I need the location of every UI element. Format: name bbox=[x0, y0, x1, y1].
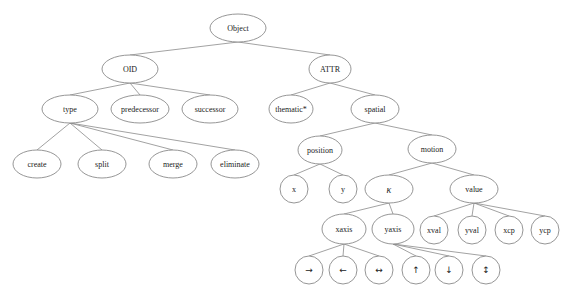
node-label: thematic* bbox=[275, 105, 307, 114]
edge-attr-to-thematic bbox=[291, 83, 330, 95]
node-yaxis: yaxis bbox=[372, 214, 414, 244]
node-label: xaxis bbox=[336, 225, 353, 234]
node-label: eliminate bbox=[220, 160, 250, 169]
node-up-down-arrow: ↕ bbox=[472, 256, 500, 284]
node-label: ATTR bbox=[320, 65, 341, 74]
node-motion: motion bbox=[408, 135, 456, 163]
edge-position-to-y bbox=[320, 164, 343, 175]
edge-value-to-yval bbox=[472, 203, 474, 216]
node-label: merge bbox=[163, 160, 183, 169]
node-up-arrow: ↑ bbox=[402, 256, 430, 284]
node-successor: successor bbox=[182, 95, 238, 123]
edge-kappa-to-xaxis bbox=[344, 203, 389, 214]
right-arrow-icon: → bbox=[305, 265, 313, 275]
node-right-arrow: → bbox=[295, 256, 323, 284]
node-merge: merge bbox=[149, 150, 197, 178]
node-label: predecessor bbox=[121, 105, 159, 114]
edge-attr-to-spatial bbox=[330, 83, 375, 95]
left-arrow-icon: ← bbox=[339, 265, 347, 275]
edge-spatial-to-position bbox=[320, 123, 375, 136]
node-label: κ bbox=[387, 184, 392, 195]
node-spatial: spatial bbox=[351, 95, 399, 123]
edge-spatial-to-motion bbox=[375, 123, 432, 135]
down-arrow-icon: ↓ bbox=[445, 265, 453, 275]
node-label: yval bbox=[465, 226, 480, 235]
node-eliminate: eliminate bbox=[211, 150, 259, 178]
node-split: split bbox=[78, 150, 126, 178]
node-label: value bbox=[465, 185, 483, 194]
node-kappa: κ bbox=[365, 175, 413, 203]
edge-motion-to-value bbox=[432, 163, 474, 175]
node-label: successor bbox=[195, 105, 226, 114]
node-label: xval bbox=[427, 226, 442, 235]
node-down-arrow: ↓ bbox=[435, 256, 463, 284]
node-label: split bbox=[95, 160, 110, 169]
node-label: create bbox=[27, 160, 47, 169]
edge-motion-to-kappa bbox=[389, 163, 432, 175]
edge-oid-to-type bbox=[70, 83, 130, 95]
edge-xaxis-to-right-arrow bbox=[309, 244, 344, 256]
edge-xaxis-to-left-arrow bbox=[343, 244, 344, 256]
edge-oid-to-successor bbox=[130, 83, 210, 95]
node-type: type bbox=[42, 95, 98, 123]
edge-value-to-xcp bbox=[474, 203, 509, 216]
node-predecessor: predecessor bbox=[111, 95, 169, 123]
node-xaxis: xaxis bbox=[322, 214, 366, 244]
node-thematic: thematic* bbox=[269, 95, 313, 123]
left-right-arrow-icon: ↔ bbox=[375, 265, 383, 275]
node-yval: yval bbox=[458, 216, 486, 244]
node-label: OID bbox=[123, 65, 137, 74]
node-label: ycp bbox=[539, 226, 551, 235]
node-left-arrow: ← bbox=[329, 256, 357, 284]
node-oid: OID bbox=[102, 55, 158, 83]
node-label: type bbox=[63, 105, 77, 114]
edge-type-to-eliminate bbox=[70, 123, 235, 150]
node-ycp: ycp bbox=[531, 216, 559, 244]
edge-object-to-oid bbox=[130, 42, 238, 55]
up-arrow-icon: ↑ bbox=[412, 265, 420, 275]
node-object: Object bbox=[210, 14, 266, 42]
node-label: y bbox=[341, 185, 345, 194]
node-create: create bbox=[13, 150, 61, 178]
up-down-arrow-icon: ↕ bbox=[482, 265, 490, 275]
node-x: x bbox=[280, 175, 308, 203]
edge-oid-to-predecessor bbox=[130, 83, 140, 95]
edge-value-to-ycp bbox=[474, 203, 545, 216]
edge-position-to-x bbox=[294, 164, 320, 175]
node-label: yaxis bbox=[385, 225, 402, 234]
node-attr: ATTR bbox=[309, 55, 351, 83]
edge-object-to-attr bbox=[238, 42, 330, 55]
node-xval: xval bbox=[420, 216, 448, 244]
edge-kappa-to-yaxis bbox=[389, 203, 393, 214]
node-value: value bbox=[450, 175, 498, 203]
node-label: spatial bbox=[365, 105, 387, 114]
node-position: position bbox=[298, 136, 342, 164]
node-y: y bbox=[329, 175, 357, 203]
object-tree-diagram: ObjectOIDATTRtypepredecessorsuccessorthe… bbox=[0, 0, 567, 290]
node-label: Object bbox=[227, 24, 249, 33]
node-label: xcp bbox=[503, 226, 515, 235]
node-label: position bbox=[307, 146, 333, 155]
node-label: motion bbox=[421, 145, 444, 154]
edge-xaxis-to-left-right-arrow bbox=[344, 244, 379, 256]
tree-nodes: ObjectOIDATTRtypepredecessorsuccessorthe… bbox=[13, 14, 559, 284]
node-label: x bbox=[292, 185, 296, 194]
edge-value-to-xval bbox=[434, 203, 474, 216]
node-xcp: xcp bbox=[495, 216, 523, 244]
node-left-right-arrow: ↔ bbox=[365, 256, 393, 284]
edge-type-to-create bbox=[37, 123, 70, 150]
